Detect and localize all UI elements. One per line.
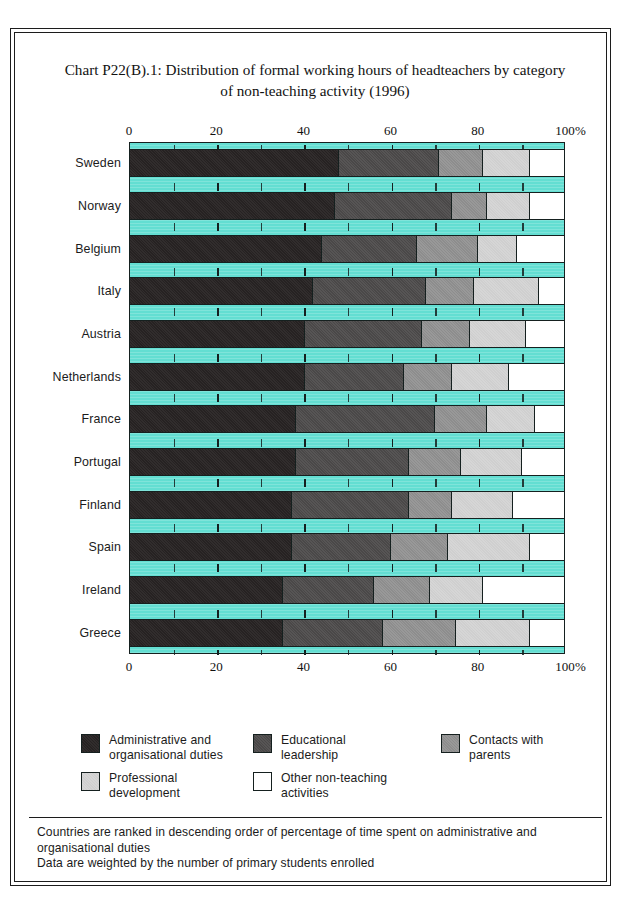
stacked-bar[interactable] <box>129 235 565 263</box>
bar-segment[interactable] <box>130 364 304 390</box>
bar-segment[interactable] <box>421 321 469 347</box>
bar-segment[interactable] <box>447 534 529 560</box>
stacked-bar[interactable] <box>129 192 565 220</box>
legend-item-administrative-and-organisational-duties[interactable]: Administrative and organisational duties <box>81 733 223 763</box>
bar-segment[interactable] <box>486 406 534 432</box>
bar-segment[interactable] <box>130 278 312 304</box>
bar-segment[interactable] <box>321 236 416 262</box>
x-axis-tick-mark <box>522 610 523 618</box>
bar-segment[interactable] <box>521 449 564 475</box>
bar-segment[interactable] <box>429 577 481 603</box>
bar-segment[interactable] <box>408 449 460 475</box>
bar-segment[interactable] <box>334 193 451 219</box>
x-axis-tick-mark <box>522 354 523 362</box>
bar-segment[interactable] <box>291 492 408 518</box>
stacked-bar[interactable] <box>129 448 565 476</box>
stacked-bar[interactable] <box>129 320 565 348</box>
legend-swatch-administrative-and-organisational-duties <box>81 734 100 753</box>
bar-segment[interactable] <box>529 534 564 560</box>
bar-segment[interactable] <box>451 492 512 518</box>
stacked-bar[interactable] <box>129 491 565 519</box>
chart-legend: Administrative and organisational duties… <box>81 733 581 809</box>
bar-row <box>129 149 565 177</box>
bar-segment[interactable] <box>529 150 564 176</box>
bar-segment[interactable] <box>538 278 564 304</box>
stacked-bar[interactable] <box>129 533 565 561</box>
bar-segment[interactable] <box>525 321 564 347</box>
bar-segment[interactable] <box>373 577 429 603</box>
x-axis-tick-mark <box>522 308 523 316</box>
legend-item-contacts-with-parents[interactable]: Contacts with parents <box>441 733 581 763</box>
bar-segment[interactable] <box>477 236 516 262</box>
bar-segment[interactable] <box>130 620 282 646</box>
bar-segment[interactable] <box>130 193 334 219</box>
bar-segment[interactable] <box>130 321 304 347</box>
bar-segment[interactable] <box>390 534 446 560</box>
bar-segment[interactable] <box>130 449 295 475</box>
bar-segment[interactable] <box>482 577 564 603</box>
bar-row <box>129 320 565 348</box>
bar-segment[interactable] <box>460 449 521 475</box>
x-axis-tick-mark <box>522 268 523 276</box>
stacked-bar[interactable] <box>129 149 565 177</box>
stacked-bar[interactable] <box>129 277 565 305</box>
bar-segment[interactable] <box>512 492 564 518</box>
bar-row <box>129 235 565 263</box>
bar-segment[interactable] <box>282 620 382 646</box>
country-label-austria: Austria <box>17 327 121 341</box>
bar-segment[interactable] <box>473 278 538 304</box>
bar-segment[interactable] <box>508 364 564 390</box>
bar-segment[interactable] <box>438 150 481 176</box>
x-axis-bottom: 020406080100% <box>15 659 616 675</box>
bar-segment[interactable] <box>529 193 564 219</box>
x-axis-tick-mark <box>522 223 523 231</box>
bar-segment[interactable] <box>295 449 408 475</box>
bar-segment[interactable] <box>130 406 295 432</box>
legend-item-professional-development[interactable]: Professional development <box>81 771 180 801</box>
stacked-bar[interactable] <box>129 576 565 604</box>
bar-segment[interactable] <box>434 406 486 432</box>
bar-segment[interactable] <box>382 620 456 646</box>
stacked-bar[interactable] <box>129 619 565 647</box>
stacked-bar[interactable] <box>129 363 565 391</box>
bar-segment[interactable] <box>516 236 564 262</box>
x-axis-tick-label: 40 <box>297 659 310 675</box>
bar-segment[interactable] <box>534 406 564 432</box>
bar-segment[interactable] <box>482 150 530 176</box>
bar-segment[interactable] <box>304 321 421 347</box>
bar-segment[interactable] <box>338 150 438 176</box>
bar-segment[interactable] <box>295 406 434 432</box>
bar-segment[interactable] <box>130 492 291 518</box>
bar-segment[interactable] <box>130 577 282 603</box>
x-axis-tick-mark <box>522 564 523 572</box>
bar-row <box>129 363 565 391</box>
bar-segment[interactable] <box>455 620 529 646</box>
bar-segment[interactable] <box>312 278 425 304</box>
bar-segment[interactable] <box>130 534 291 560</box>
bar-segment[interactable] <box>469 321 525 347</box>
bar-segment[interactable] <box>130 236 321 262</box>
bar-segment[interactable] <box>408 492 451 518</box>
bar-segment[interactable] <box>451 193 486 219</box>
bar-segment[interactable] <box>529 620 564 646</box>
bar-segment[interactable] <box>282 577 373 603</box>
legend-row: Administrative and organisational duties… <box>81 733 581 771</box>
stacked-bar[interactable] <box>129 405 565 433</box>
x-axis-tick-label: 40 <box>297 123 310 139</box>
legend-swatch-contacts-with-parents <box>441 734 460 753</box>
bar-segment[interactable] <box>451 364 507 390</box>
x-axis-tick-label: 0 <box>126 659 133 675</box>
bar-segment[interactable] <box>403 364 451 390</box>
bar-segment[interactable] <box>425 278 473 304</box>
footnote-divider <box>29 817 602 818</box>
bar-segment[interactable] <box>304 364 404 390</box>
bar-segment[interactable] <box>130 150 338 176</box>
bar-segment[interactable] <box>291 534 391 560</box>
bar-segment[interactable] <box>486 193 529 219</box>
legend-item-educational-leadership[interactable]: Educational leadership <box>253 733 346 763</box>
legend-item-other-non-teaching-activities[interactable]: Other non-teaching activities <box>253 771 387 801</box>
x-axis-tick-mark <box>522 524 523 532</box>
bar-segment[interactable] <box>416 236 477 262</box>
legend-swatch-professional-development <box>81 772 100 791</box>
country-label-ireland: Ireland <box>17 583 121 597</box>
